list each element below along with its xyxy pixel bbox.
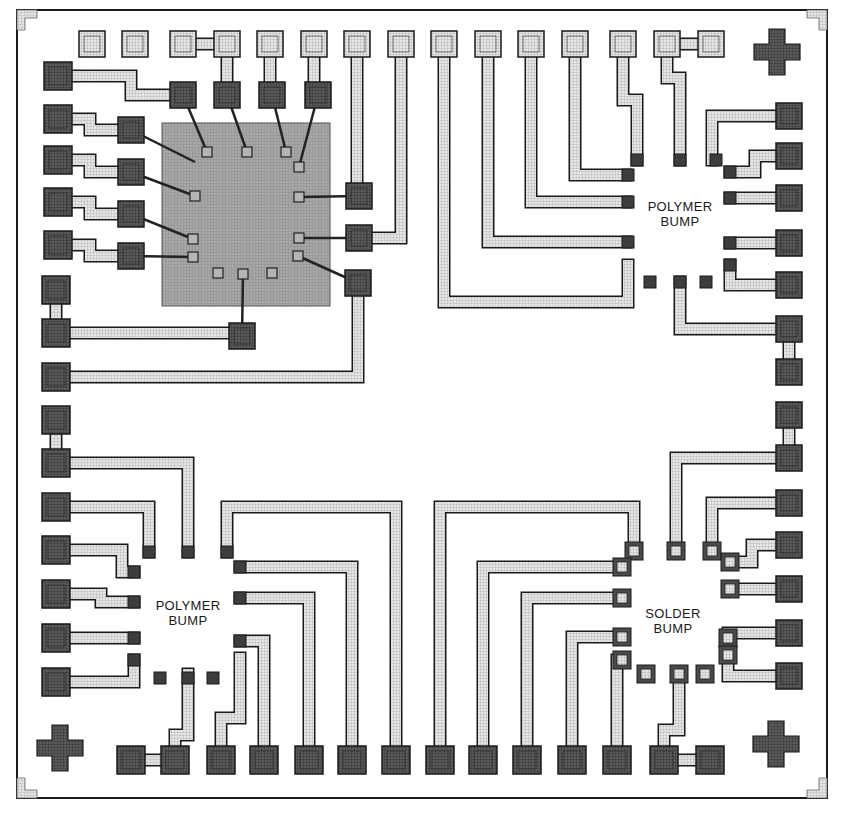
polymer-bump (128, 566, 140, 578)
label-line: BUMP (640, 214, 720, 229)
polymer-bump (143, 546, 155, 558)
solder-bump-core (725, 584, 735, 594)
pad-bottom (426, 746, 454, 774)
chip-bond-pad (188, 234, 198, 244)
pad-top (475, 31, 501, 57)
pad-right (776, 103, 802, 129)
pad-bottom (696, 746, 724, 774)
polymer-bump (724, 259, 736, 271)
trace (221, 658, 240, 760)
solder-bump-core (700, 669, 710, 679)
polymer-bump (128, 596, 140, 608)
chip-bond-pad (294, 162, 304, 172)
polymer-bump (128, 632, 140, 644)
solder-bump-core (617, 632, 627, 642)
chip-bond-pad (213, 268, 223, 278)
trace (58, 76, 183, 95)
pad-left (42, 668, 70, 696)
trace (488, 44, 626, 242)
label-polymer-bump-bottom-left: POLYMER BUMP (148, 598, 228, 628)
pad-bottom (650, 746, 678, 774)
pad-top (214, 31, 240, 57)
pad-top (518, 31, 544, 57)
polymer-bump (674, 154, 686, 166)
pad-left (42, 406, 70, 434)
pad-right (776, 230, 802, 256)
solder-bump-core (723, 633, 733, 643)
pad-left (44, 188, 72, 216)
pad-bottom (382, 746, 410, 774)
chip-bond-pad (281, 147, 291, 157)
chip-bond-pad (242, 147, 252, 157)
chip-bond-pad (190, 191, 200, 201)
polymer-bump (221, 546, 233, 558)
pad-bottom (207, 746, 235, 774)
pad-inner (170, 82, 196, 108)
pad-top (79, 31, 105, 57)
pad-top (122, 31, 148, 57)
alignment-cross-icon (753, 721, 799, 767)
solder-bump-core (725, 557, 735, 567)
polymer-bump (622, 196, 634, 208)
pad-top (610, 31, 636, 57)
label-line: POLYMER (148, 598, 228, 613)
pad-inner (118, 117, 144, 143)
alignment-cross-icon (754, 29, 800, 75)
chip-bond-pad (202, 147, 212, 157)
pad-inner (345, 270, 371, 296)
pad-bottom (338, 746, 366, 774)
polymer-bump (234, 561, 246, 573)
chip-bond-pad (267, 268, 277, 278)
polymer-bump (674, 276, 686, 288)
pad-top (698, 31, 724, 57)
pad-left (42, 449, 70, 477)
pad-left (42, 624, 70, 652)
pad-inner (118, 243, 144, 269)
polymer-bump (700, 276, 712, 288)
chip-bond-pad (188, 252, 198, 262)
solder-bump-core (671, 546, 681, 556)
pad-bottom (469, 746, 497, 774)
chip (131, 95, 359, 336)
label-line: BUMP (633, 621, 713, 636)
pad-right (776, 445, 802, 471)
polymer-bump (724, 192, 736, 204)
pad-bottom (513, 746, 541, 774)
pad-right (776, 663, 802, 689)
chip-bond-pad (238, 269, 248, 279)
chip-bond-pad (294, 233, 304, 243)
solder-bump-core (707, 546, 717, 556)
pad-bottom (117, 746, 145, 774)
solder-bump-core (674, 669, 684, 679)
trace (623, 44, 637, 160)
substrate-layout-diagram: POLYMER BUMP POLYMER BUMP SOLDER BUMP (0, 0, 842, 813)
pad-left (42, 363, 70, 391)
polymer-bump (182, 546, 194, 558)
solder-bump-core (629, 546, 639, 556)
chip-bond-pad (294, 192, 304, 202)
pad-inner (118, 201, 144, 227)
pad-bottom (250, 746, 278, 774)
alignment-cross-icon (37, 725, 83, 771)
trace-outline (488, 44, 626, 242)
pad-right (776, 316, 802, 342)
polymer-bump (128, 654, 140, 666)
pad-left (44, 62, 72, 90)
layout-canvas (0, 0, 842, 813)
pad-bottom (603, 746, 631, 774)
label-line: BUMP (148, 613, 228, 628)
pad-bottom (558, 746, 586, 774)
pad-top (301, 31, 327, 57)
pad-top (388, 31, 414, 57)
pad-right (776, 620, 802, 646)
pad-right (776, 359, 802, 385)
polymer-bump (234, 635, 246, 647)
label-polymer-bump-top-right: POLYMER BUMP (640, 199, 720, 229)
polymer-bump (631, 154, 643, 166)
pad-left (42, 493, 70, 521)
polymer-bump (724, 237, 736, 249)
solder-bump-core (641, 669, 651, 679)
solder-bump-core (723, 650, 733, 660)
pad-right (776, 143, 802, 169)
pad-right (776, 532, 802, 558)
